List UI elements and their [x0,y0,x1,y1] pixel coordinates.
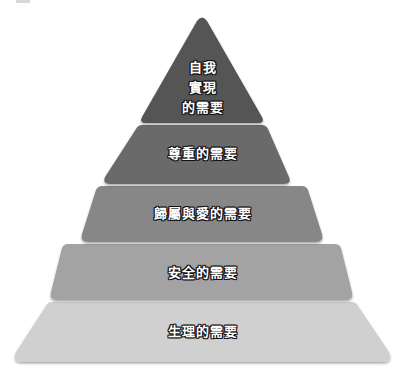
label-esteem: 尊重的需要 [0,144,405,164]
label-self-actualization-line-1: 自我 [0,58,405,78]
label-safety: 安全的需要 [0,263,405,283]
label-physiological: 生理的需要 [0,322,405,342]
label-self-actualization-line-2: 實現 [0,78,405,98]
label-self-actualization-line-3: 的需要 [0,98,405,118]
label-belonging: 歸屬與愛的需要 [0,204,405,224]
